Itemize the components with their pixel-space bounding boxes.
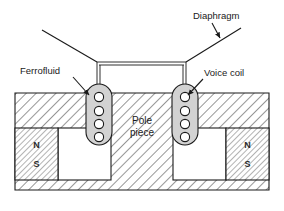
- magnet-right-north-label: N: [244, 140, 251, 150]
- ferrofluid-label: Ferrofluid: [20, 65, 60, 76]
- diaphragm-label: Diaphragm: [193, 10, 240, 21]
- loudspeaker-cross-section-diagram: N S N S Pole piece: [0, 0, 284, 211]
- magnet-left-south-label: S: [33, 159, 39, 169]
- magnet-right-body: [226, 128, 269, 180]
- diaphragm-arm-right: [186, 28, 241, 62]
- magnet-right-south-label: S: [244, 159, 250, 169]
- pole-piece-label-line2: piece: [130, 127, 154, 138]
- coil-turn: [180, 132, 189, 141]
- diaphragm-arm-left: [42, 30, 97, 62]
- magnet-left-body: [15, 128, 58, 180]
- callout-ferrofluid: Ferrofluid: [20, 65, 89, 95]
- pole-piece-label-group: Pole piece: [130, 115, 154, 138]
- coil-turn: [180, 92, 189, 101]
- coil-turn: [180, 119, 189, 128]
- diaphragm-leader-arrow: [212, 23, 220, 38]
- diagram-canvas: N S N S Pole piece: [0, 0, 284, 211]
- ferrofluid-leader-arrow: [73, 77, 89, 95]
- coil-turn: [94, 119, 103, 128]
- coil-turn: [94, 132, 103, 141]
- pole-piece-label-line1: Pole: [132, 115, 152, 126]
- diaphragm: [42, 28, 241, 88]
- voice-coil-assembly-right: [172, 84, 198, 145]
- voice-coil-assembly-left: [86, 84, 112, 145]
- magnet-left: N S: [15, 128, 58, 180]
- voice-coil-label: Voice coil: [204, 67, 244, 78]
- magnet-left-north-label: N: [33, 140, 40, 150]
- coil-turn: [94, 92, 103, 101]
- magnet-right: N S: [226, 128, 269, 180]
- coil-turn: [94, 106, 103, 115]
- coil-turn: [180, 106, 189, 115]
